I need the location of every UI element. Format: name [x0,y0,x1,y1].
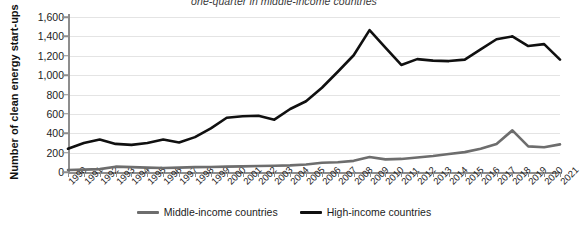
y-tick-label: 1,000 [4,69,64,81]
y-tick-label: 1,400 [4,30,64,42]
y-tick-label: 1,600 [4,11,64,23]
y-tick-label: 200 [4,147,64,159]
series-line-high-income-countries [68,30,560,149]
series-layer [68,17,560,172]
legend-label: Middle-income countries [164,206,278,218]
legend-item[interactable]: Middle-income countries [137,206,278,218]
legend-label: High-income countries [327,206,431,218]
chart-subtitle: one-quarter in middle-income countries [0,0,568,7]
plot-area [68,17,560,172]
y-tick-label: 1,200 [4,50,64,62]
legend-swatch-icon [300,211,322,214]
legend-swatch-icon [137,211,159,214]
y-tick-label: 800 [4,89,64,101]
legend-item[interactable]: High-income countries [300,206,431,218]
y-tick-label: 400 [4,127,64,139]
chart-legend: Middle-income countriesHigh-income count… [0,206,568,218]
x-tick-label: 2021 [558,164,581,187]
y-tick-label: 0 [4,166,64,178]
y-tick-label: 600 [4,108,64,120]
series-line-middle-income-countries [68,130,560,170]
